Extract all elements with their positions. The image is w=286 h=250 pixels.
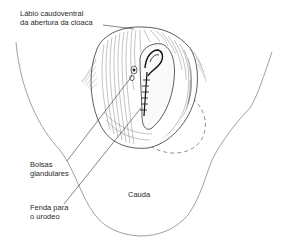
label-line: Bolsas [30,160,69,169]
label-line: da abertura da cloaca [20,18,93,27]
label-line: Fenda para [30,203,68,212]
label-line: Lábio caudoventral [20,9,93,18]
label-tail: Cauda [128,190,150,199]
label-glandular-pouches: Bolsas glandulares [30,160,69,178]
label-caudoventral-lip: Lábio caudoventral da abertura da cloaca [20,9,93,27]
label-urodeum-slit: Fenda para o urodeo [30,203,68,221]
label-line: Cauda [128,190,150,199]
label-line: o urodeo [30,212,68,221]
label-line: glandulares [30,169,69,178]
